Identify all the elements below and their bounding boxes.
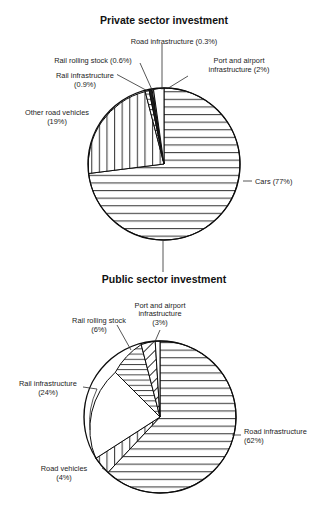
label-public-rail-infrastructure-line2: (24%): [38, 388, 58, 397]
two-pie-chart-figure: Private sector investment: [0, 0, 329, 513]
private-sector-pie: [88, 88, 240, 240]
label-public-road-infrastructure-line2: (62%): [244, 436, 264, 445]
label-rail-rolling-stock: Rail rolling stock (0.6%): [54, 56, 132, 65]
label-public-port-airport-line3: (3%): [152, 318, 168, 327]
label-rail-infrastructure-line2: (0.9%): [74, 80, 96, 89]
label-rail-infrastructure-line1: Rail infrastructure: [56, 71, 114, 80]
label-road-infrastructure: Road infrastructure (0.3%): [131, 37, 218, 46]
label-other-road-vehicles-line1: Other road vehicles: [25, 108, 89, 117]
label-public-rail-infrastructure-line1: Rail infrastructure: [19, 379, 77, 388]
label-port-airport-line2: infrastructure (2%): [209, 65, 270, 74]
label-public-rail-rolling-stock-line1: Rail rolling stock: [72, 316, 126, 325]
label-public-road-vehicles-line1: Road vehicles: [41, 464, 88, 473]
label-public-road-infrastructure-line1: Road infrastructure: [244, 427, 307, 436]
label-public-road-vehicles-line2: (4%): [56, 473, 72, 482]
public-sector-title: Public sector investment: [102, 273, 227, 285]
label-other-road-vehicles-line2: (19%): [47, 117, 67, 126]
label-cars: Cars (77%): [255, 177, 292, 186]
label-public-port-airport-line2: infrastructure: [138, 309, 181, 318]
private-sector-title: Private sector investment: [100, 14, 228, 26]
label-public-rail-rolling-stock-line2: (6%): [91, 325, 107, 334]
label-port-airport-line1: Port and airport: [214, 56, 265, 65]
